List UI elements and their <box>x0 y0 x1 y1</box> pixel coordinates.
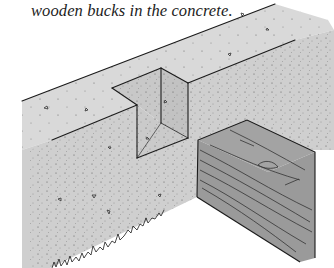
concrete-buck-illustration <box>0 0 334 268</box>
